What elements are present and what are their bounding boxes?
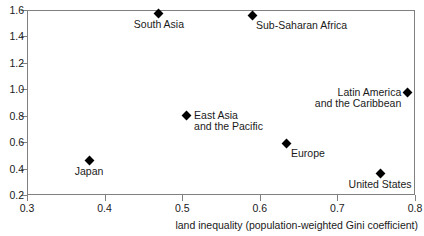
data-point-label: Japan (29, 166, 149, 178)
x-tick-label: 0.4 (85, 203, 125, 214)
data-point-label: United States (320, 179, 424, 191)
y-tick-label: 0.4 (0, 164, 24, 175)
scatter-chart: 0.20.40.60.81.01.21.41.6 0.30.40.50.60.7… (0, 0, 424, 236)
x-tick-mark (105, 195, 106, 201)
x-tick-mark (182, 195, 183, 201)
y-tick-label: 0.6 (0, 137, 24, 148)
y-tick-label: 1.2 (0, 58, 24, 69)
data-point-label: Europe (291, 148, 325, 160)
x-tick-mark (415, 195, 416, 201)
data-point-label: Sub-Saharan Africa (256, 20, 347, 32)
x-tick-label: 0.7 (317, 203, 357, 214)
y-tick-label: 1.4 (0, 31, 24, 42)
x-tick-label: 0.6 (240, 203, 280, 214)
x-tick-label: 0.5 (162, 203, 202, 214)
data-point-label: East Asia and the Pacific (194, 110, 263, 133)
y-tick-label: 1.0 (0, 84, 24, 95)
x-tick-label: 0.8 (395, 203, 424, 214)
y-tick-label: 1.6 (0, 5, 24, 16)
data-point-label: South Asia (99, 19, 219, 31)
data-point-label: Latin America and the Caribbean (271, 87, 401, 110)
x-axis-title: land inequality (population-weighted Gin… (175, 219, 418, 231)
y-tick-label: 0.8 (0, 111, 24, 122)
x-tick-mark (27, 195, 28, 201)
y-tick-label: 0.2 (0, 190, 24, 201)
x-tick-mark (260, 195, 261, 201)
x-tick-mark (337, 195, 338, 201)
x-tick-label: 0.3 (7, 203, 47, 214)
